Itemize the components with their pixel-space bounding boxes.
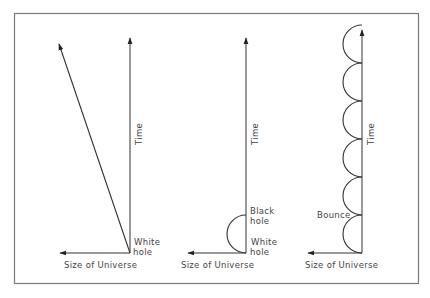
panel-black-white-hole: Time Size of Universe Black hole White h… — [181, 38, 277, 270]
black-hole-label-line1: Black — [250, 206, 275, 216]
bounce-arc — [343, 63, 362, 101]
white-hole-label-line1: White — [251, 237, 277, 247]
size-label: Size of Universe — [305, 260, 378, 270]
bounce-arc — [343, 101, 362, 139]
expansion-line — [59, 44, 130, 253]
bounce-arc — [343, 215, 362, 253]
panel-bounce: Time Size of Universe Bounce — [305, 25, 378, 270]
figure-frame — [15, 14, 419, 284]
bounce-label: Bounce — [317, 210, 351, 220]
collapse-arc — [227, 215, 246, 253]
bounce-arc — [343, 139, 362, 177]
time-label: Time — [134, 123, 144, 146]
universe-models-diagram: Time Size of Universe White hole Time Si… — [0, 0, 430, 298]
black-hole-label-line2: hole — [250, 216, 269, 226]
size-label: Size of Universe — [181, 260, 254, 270]
white-hole-label-line2: hole — [250, 247, 269, 257]
time-label: Time — [250, 123, 260, 146]
white-hole-label-line2: hole — [133, 247, 152, 257]
white-hole-label-line1: White — [134, 237, 160, 247]
panel-white-hole: Time Size of Universe White hole — [59, 38, 160, 270]
bounce-arc — [343, 25, 362, 63]
size-label: Size of Universe — [64, 260, 137, 270]
time-label: Time — [366, 123, 376, 146]
